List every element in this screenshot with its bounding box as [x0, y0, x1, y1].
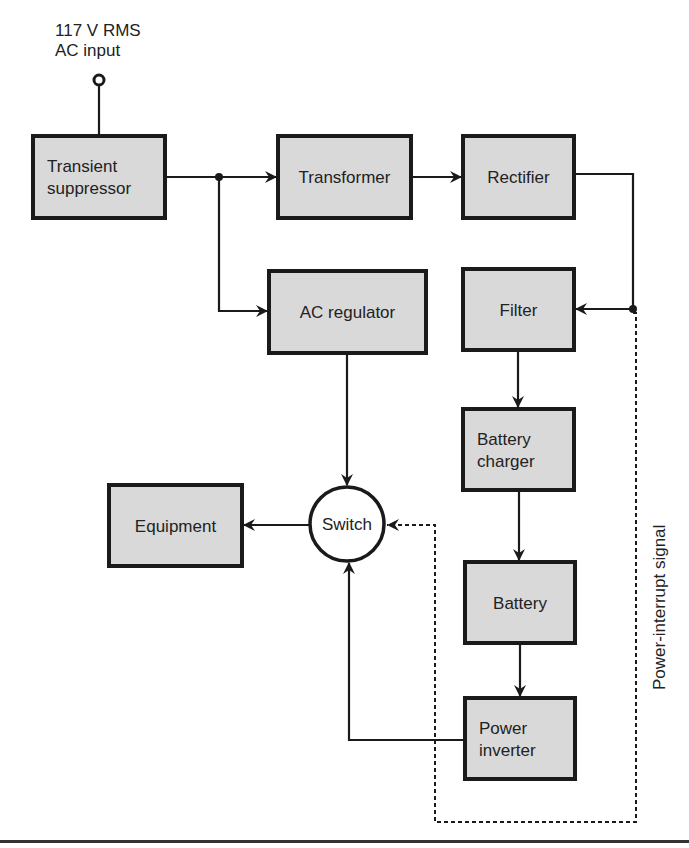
node-label: Rectifier — [487, 168, 550, 187]
node-box — [465, 698, 575, 779]
node-rectifier: Rectifier — [463, 136, 574, 218]
node-equipment: Equipment — [109, 485, 242, 566]
node-label: AC regulator — [300, 303, 396, 322]
node-label: Transient — [47, 157, 118, 176]
node-label: Power — [479, 719, 528, 738]
diagram-canvas: TransientsuppressorTransformerRectifierA… — [0, 0, 689, 848]
node-label: Battery — [477, 430, 531, 449]
edge-rectifier-to-filter — [575, 174, 633, 309]
node-label: Transformer — [299, 168, 391, 187]
node-battery-charger: Batterycharger — [463, 409, 574, 490]
arrowhead-icon — [387, 519, 399, 531]
power-interrupt-signal-label: Power-interrupt signal — [650, 525, 670, 690]
node-battery: Battery — [465, 562, 575, 643]
node-label: charger — [477, 452, 535, 471]
node-label: Filter — [500, 301, 538, 320]
ac-input-terminal-icon — [94, 75, 104, 85]
node-label: suppressor — [47, 179, 131, 198]
junction-dot — [629, 305, 637, 313]
node-box — [33, 136, 165, 218]
bottom-rule — [0, 840, 689, 843]
edge-inverter-to-switch — [349, 563, 464, 740]
node-power-inverter: Powerinverter — [465, 698, 575, 779]
node-ac-regulator: AC regulator — [269, 271, 426, 353]
node-transformer: Transformer — [278, 136, 411, 218]
edge-transient-to-ac-regulator — [219, 177, 267, 311]
node-label: Battery — [493, 594, 547, 613]
switch-label: Switch — [322, 515, 372, 534]
node-transient: Transientsuppressor — [33, 136, 165, 218]
node-filter: Filter — [463, 269, 574, 350]
node-label: inverter — [479, 741, 536, 760]
node-label: Equipment — [135, 517, 217, 536]
ups-block-diagram: 117 V RMS AC input — [0, 0, 689, 848]
node-box — [463, 409, 574, 490]
